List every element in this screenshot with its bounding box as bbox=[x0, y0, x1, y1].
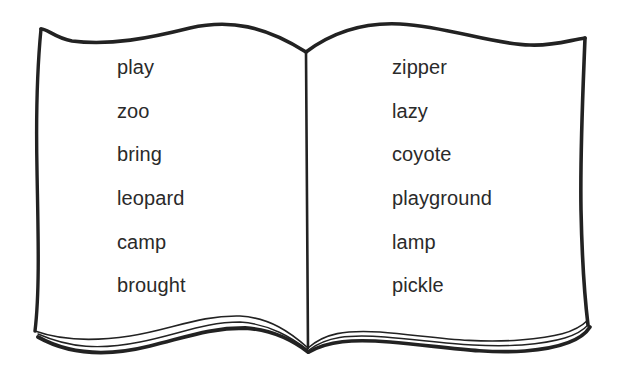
left-word-1: play bbox=[117, 55, 154, 79]
book-spine bbox=[306, 52, 308, 348]
right-word-3: coyote bbox=[392, 142, 452, 166]
left-word-6: brought bbox=[117, 273, 186, 297]
right-page-outline bbox=[306, 24, 585, 52]
left-word-4: leopard bbox=[117, 186, 184, 210]
right-word-1: zipper bbox=[392, 55, 447, 79]
left-word-3: bring bbox=[117, 142, 162, 166]
left-page-outline bbox=[41, 24, 306, 52]
right-word-2: lazy bbox=[392, 99, 428, 123]
open-book-icon bbox=[0, 0, 627, 381]
right-word-6: pickle bbox=[392, 273, 444, 297]
left-word-5: camp bbox=[117, 230, 166, 254]
right-word-4: playground bbox=[392, 186, 492, 210]
right-word-5: lamp bbox=[392, 230, 436, 254]
left-word-2: zoo bbox=[117, 99, 150, 123]
book-illustration: play zoo bring leopard camp brought zipp… bbox=[0, 0, 627, 381]
